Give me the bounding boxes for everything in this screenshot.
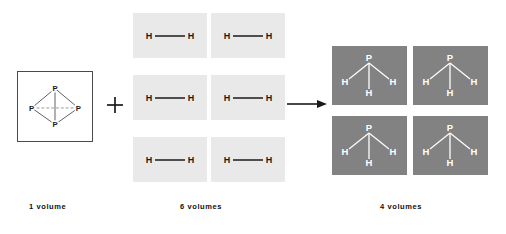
ph3-molecule-panel: P H H H — [413, 116, 488, 175]
svg-text:H: H — [224, 155, 231, 165]
svg-text:H: H — [146, 93, 153, 103]
h2-molecule-svg: H H — [211, 75, 285, 120]
reaction-arrow-icon — [287, 96, 327, 112]
h2-molecule-svg: H H — [211, 137, 285, 182]
h2-molecule-panel: H H — [211, 75, 285, 120]
chemical-reaction-diagram: P P P P P P P P H H H — [0, 0, 506, 234]
h2-molecule-panel: H H — [133, 75, 207, 120]
caption-ph3-volume: 4 volumes — [380, 202, 422, 211]
ph3-molecule-svg: P H H H — [332, 46, 407, 105]
p4-molecule-panel: P P P P P P P P — [17, 71, 93, 142]
svg-text:H: H — [447, 157, 454, 168]
caption-p4-volume: 1 volume — [29, 202, 66, 211]
h2-molecule-svg: H H — [211, 13, 285, 58]
svg-text:P: P — [52, 84, 57, 93]
svg-text:H: H — [266, 31, 273, 41]
svg-text:H: H — [390, 146, 397, 157]
svg-text:H: H — [266, 93, 273, 103]
svg-text:H: H — [342, 146, 349, 157]
svg-text:H: H — [366, 87, 373, 98]
ph3-molecule-panel: P H H H — [332, 116, 407, 175]
svg-text:H: H — [188, 155, 195, 165]
svg-text:P: P — [447, 52, 454, 63]
svg-text:H: H — [423, 146, 430, 157]
h2-molecule-svg: H H — [133, 13, 207, 58]
svg-text:P: P — [76, 104, 81, 113]
h2-molecule-panel: H H — [211, 13, 285, 58]
h2-molecule-svg: H H — [133, 75, 207, 120]
svg-text:H: H — [266, 155, 273, 165]
svg-text:H: H — [447, 87, 454, 98]
svg-text:H: H — [471, 146, 478, 157]
svg-text:H: H — [471, 76, 478, 87]
svg-text:H: H — [224, 31, 231, 41]
h2-molecule-grid: H H H H H H H H — [133, 13, 285, 185]
svg-text:P: P — [447, 122, 454, 133]
svg-text:H: H — [423, 76, 430, 87]
caption-h2-volume: 6 volumes — [180, 202, 222, 211]
ph3-molecule-svg: P H H H — [332, 116, 407, 175]
h2-molecule-panel: H H — [133, 13, 207, 58]
svg-text:H: H — [390, 76, 397, 87]
svg-text:P: P — [366, 122, 373, 133]
ph3-molecule-grid: P H H H P H H H — [332, 46, 488, 175]
h2-molecule-panel: H H — [133, 137, 207, 182]
ph3-molecule-panel: P H H H — [332, 46, 407, 105]
h2-molecule-svg: H H — [133, 137, 207, 182]
svg-text:H: H — [224, 93, 231, 103]
svg-text:H: H — [366, 157, 373, 168]
h2-molecule-panel: H H — [211, 137, 285, 182]
svg-text:P: P — [29, 104, 34, 113]
svg-text:H: H — [188, 31, 195, 41]
svg-text:H: H — [146, 31, 153, 41]
plus-operator-icon — [104, 94, 126, 116]
svg-text:H: H — [146, 155, 153, 165]
svg-text:P: P — [52, 120, 57, 129]
ph3-molecule-svg: P H H H — [413, 46, 488, 105]
ph3-molecule-svg: P H H H — [413, 116, 488, 175]
p4-tetrahedron-svg: P P P P P P P P — [18, 72, 92, 141]
ph3-molecule-panel: P H H H — [413, 46, 488, 105]
svg-text:H: H — [342, 76, 349, 87]
svg-text:H: H — [188, 93, 195, 103]
svg-text:P: P — [366, 52, 373, 63]
